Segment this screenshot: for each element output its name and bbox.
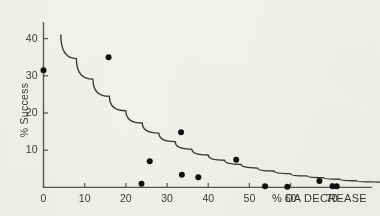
x-tick-label-10: 10 bbox=[74, 192, 96, 204]
data-point bbox=[262, 183, 268, 189]
data-point bbox=[179, 172, 185, 178]
x-tick-label-40: 40 bbox=[197, 192, 219, 204]
data-points-group bbox=[41, 54, 340, 189]
data-point bbox=[233, 157, 239, 163]
data-point bbox=[316, 178, 322, 184]
y-tick-label-20: 20 bbox=[16, 106, 38, 118]
data-point bbox=[178, 129, 184, 135]
data-point bbox=[284, 184, 290, 190]
data-point bbox=[106, 54, 112, 60]
plot-canvas bbox=[0, 0, 380, 216]
data-point bbox=[41, 67, 47, 73]
data-point bbox=[139, 181, 145, 187]
data-point bbox=[147, 158, 153, 164]
data-point bbox=[334, 183, 340, 189]
scatter-plot-figure: % Success 010203040506070 10203040 % DA … bbox=[0, 0, 380, 216]
y-tick-label-30: 30 bbox=[16, 69, 38, 81]
x-tick-label-0: 0 bbox=[33, 192, 55, 204]
data-point bbox=[195, 174, 201, 180]
x-tick-label-20: 20 bbox=[115, 192, 137, 204]
y-tick-label-40: 40 bbox=[16, 32, 38, 44]
x-axis-title: % DA DECREASE bbox=[272, 192, 367, 204]
x-tick-label-30: 30 bbox=[156, 192, 178, 204]
axes-group bbox=[44, 22, 373, 188]
y-tick-label-10: 10 bbox=[16, 143, 38, 155]
x-tick-label-50: 50 bbox=[238, 192, 260, 204]
